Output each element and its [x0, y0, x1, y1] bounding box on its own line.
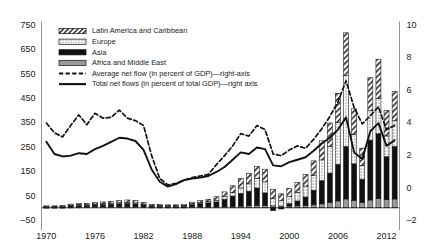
bar-segment: [295, 183, 300, 193]
bar-segment: [254, 166, 259, 178]
legend-item: Latin America and Caribbean: [59, 26, 187, 35]
y2-axis-tick-label: 2: [407, 150, 412, 160]
y2-axis-tick-label: 8: [407, 52, 412, 62]
legend-label: Asia: [92, 48, 107, 57]
x-axis-tick-label: 2012: [377, 231, 397, 241]
x-axis-tick-label: 1988: [182, 231, 202, 241]
bar-stack: [263, 169, 268, 208]
bar-segment: [327, 123, 332, 146]
bar-segment: [117, 204, 122, 207]
legend-swatch-solid-gray: [59, 60, 86, 65]
bar-segment: [109, 201, 114, 203]
bar-segment: [368, 78, 373, 111]
x-axis-tick-label: 1970: [36, 231, 56, 241]
bar-stack: [246, 174, 251, 208]
bar-segment: [271, 189, 276, 198]
y2-axis-tick-label: 6: [407, 85, 412, 95]
x-axis-tick-label: 1982: [134, 231, 154, 241]
x-axis-tick-label: 1994: [231, 231, 251, 241]
x-axis-tick-label: 2000: [279, 231, 299, 241]
y-axis-tick-label: 150: [20, 166, 35, 176]
bar-segment: [125, 200, 130, 202]
bar-segment: [263, 169, 268, 182]
bar-segment: [173, 205, 178, 206]
y-axis-tick-label: 550: [20, 69, 35, 79]
bar-segment: [319, 204, 324, 208]
bar-segment: [335, 164, 340, 201]
bar-stack: [84, 203, 89, 207]
y-axis-tick-label: 50: [25, 191, 35, 201]
bar-segment: [165, 205, 170, 206]
bar-segment: [311, 190, 316, 205]
bar-segment: [84, 203, 89, 204]
y-axis-tick-label: 750: [20, 20, 35, 30]
bar-segment: [368, 200, 373, 208]
bar-segment: [360, 166, 365, 179]
y2-axis-tick-label: 10: [407, 20, 417, 30]
bar-segment: [287, 197, 292, 204]
bar-segment: [287, 204, 292, 206]
y2-axis-tick-label: –2: [407, 215, 417, 225]
legend-label: Africa and Middle East: [92, 58, 166, 67]
bar-segment: [327, 146, 332, 173]
bar-segment: [303, 174, 308, 186]
legend-label: Average net flow (in percent of GDP)—rig…: [92, 69, 250, 78]
bar-stack: [335, 93, 340, 207]
bar-segment: [344, 33, 349, 76]
bar-segment: [214, 197, 219, 200]
bar-segment: [246, 184, 251, 191]
bar-segment: [230, 196, 235, 206]
bar-segment: [335, 201, 340, 208]
bar-segment: [206, 203, 211, 207]
bar-segment: [295, 201, 300, 206]
bar-segment: [319, 181, 324, 204]
bar-segment: [376, 199, 381, 208]
bar-segment: [76, 203, 81, 204]
bar-segment: [392, 146, 397, 199]
bar-segment: [295, 192, 300, 201]
bar-segment: [222, 192, 227, 197]
bar-segment: [125, 203, 130, 206]
bar-segment: [352, 200, 357, 207]
bar-segment: [141, 202, 146, 204]
bar-segment: [392, 121, 397, 147]
bar-segment: [133, 204, 138, 207]
legend-item: Europe: [59, 37, 116, 46]
bar-stack: [109, 201, 114, 207]
legend-item: Average net flow (in percent of GDP)—rig…: [59, 69, 250, 78]
legend-item: Asia: [59, 48, 107, 57]
bar-segment: [303, 197, 308, 206]
legend-item: Total net flows (in percent of total GDP…: [59, 79, 258, 88]
bar-segment: [246, 174, 251, 184]
bar-segment: [360, 179, 365, 202]
y-axis-tick-label: 250: [20, 142, 35, 152]
bar-segment: [352, 164, 357, 201]
total-net-flows-line: [46, 117, 394, 186]
bar-segment: [376, 134, 381, 199]
y2-axis-tick-label: 0: [407, 183, 412, 193]
bar-segment: [254, 178, 259, 188]
bar-segment: [92, 202, 97, 203]
legend-label: Total net flows (in percent of total GDP…: [92, 79, 258, 88]
bar-segment: [246, 191, 251, 206]
bar-stack: [141, 202, 146, 207]
bar-segment: [68, 204, 73, 205]
bar-segment: [287, 188, 292, 197]
bar-segment: [60, 205, 65, 206]
bar-segment: [206, 199, 211, 201]
legend-swatch-solid-black: [59, 50, 86, 55]
bar-segment: [327, 173, 332, 202]
y-axis-tick-label: 350: [20, 117, 35, 127]
y-axis-tick-label: 450: [20, 93, 35, 103]
bar-stack: [303, 174, 308, 207]
bar-segment: [384, 157, 389, 200]
bar-stack: [198, 200, 203, 207]
bar-stack: [125, 200, 130, 208]
x-axis-tick-label: 2006: [328, 231, 348, 241]
bar-segment: [214, 202, 219, 207]
bar-stack: [76, 203, 81, 207]
chart-legend: Latin America and CaribbeanEuropeAsiaAfr…: [59, 26, 258, 88]
bar-stack: [311, 161, 316, 208]
bar-segment: [392, 199, 397, 208]
bar-stack: [101, 202, 106, 208]
